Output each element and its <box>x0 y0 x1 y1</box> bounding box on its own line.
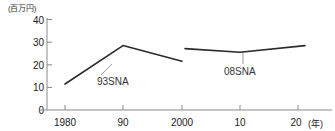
line-chart: (百万円) 40 30 20 10 0 1980 90 2000 10 20 (… <box>0 0 335 131</box>
series-line-08sna <box>185 46 305 53</box>
plot-area <box>0 0 335 131</box>
series-line-93sna <box>65 46 182 84</box>
leader-line-93sna <box>101 64 112 75</box>
